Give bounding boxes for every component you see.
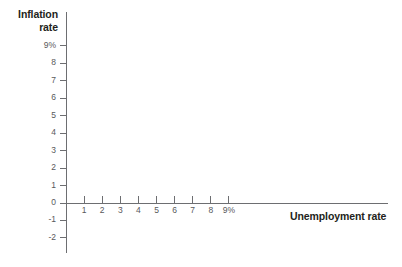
x-axis-tick-label: 6 [165, 206, 185, 215]
x-axis-title: Unemployment rate [290, 210, 386, 222]
x-axis-tick-label: 1 [74, 206, 94, 215]
y-axis-tick [60, 63, 67, 64]
y-axis-tick [60, 203, 67, 204]
x-axis-tick [138, 196, 139, 204]
x-axis-tick [102, 196, 103, 204]
x-axis-tick [228, 196, 229, 204]
y-axis-tick-label: 4 [30, 128, 56, 137]
y-axis-tick [60, 98, 67, 99]
x-axis-tick-label: 8 [201, 206, 221, 215]
y-axis-tick [60, 220, 67, 221]
y-axis-tick-label: 6 [30, 93, 56, 102]
y-axis-tick [60, 115, 67, 116]
y-axis-tick [60, 45, 67, 46]
y-axis-tick-label: 5 [30, 111, 56, 120]
x-axis-tick-label: 7 [183, 206, 203, 215]
y-axis-tick [60, 80, 67, 81]
y-axis-tick-label: 1 [30, 181, 56, 190]
y-axis-tick-label: -1 [30, 215, 56, 224]
x-axis-tick [174, 196, 175, 204]
y-axis-tick [60, 133, 67, 134]
y-axis-tick [60, 185, 67, 186]
y-axis-tick-label: 8 [30, 58, 56, 67]
y-axis-tick-label: -2 [30, 233, 56, 242]
y-axis-title-line-2: rate [0, 21, 58, 34]
x-axis-tick [120, 196, 121, 204]
y-axis-tick [60, 150, 67, 151]
y-axis-tick-label: 7 [30, 76, 56, 85]
x-axis-tick [210, 196, 211, 204]
x-axis-tick-label: 2 [92, 206, 112, 215]
y-axis-tick-label: 2 [30, 163, 56, 172]
x-axis-tick [192, 196, 193, 204]
y-axis-tick-label: 0 [30, 198, 56, 207]
y-axis-tick [60, 237, 67, 238]
x-axis-tick-label: 3 [110, 206, 130, 215]
x-axis-line [60, 203, 388, 204]
y-axis-tick [60, 168, 67, 169]
x-axis-tick [84, 196, 85, 204]
x-axis-tick [156, 196, 157, 204]
y-axis-title-line-1: Inflation [0, 8, 58, 21]
y-axis-tick-label: 3 [30, 146, 56, 155]
phillips-curve-blank-chart: Inflation rate Unemployment rate 9%87654… [0, 0, 402, 267]
y-axis-tick-label: 9% [30, 41, 56, 50]
x-axis-tick-label: 9% [219, 206, 239, 215]
x-axis-tick-label: 5 [147, 206, 167, 215]
x-axis-tick-label: 4 [128, 206, 148, 215]
y-axis-title: Inflation rate [0, 8, 58, 34]
